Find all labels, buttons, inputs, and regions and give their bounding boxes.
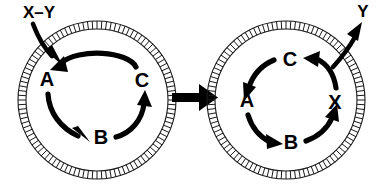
left-edge-a-to-b [48,94,90,142]
left-edge-b-to-c [116,90,152,137]
right-node-label-x: X [328,91,342,113]
right-node-label-c: C [283,48,297,70]
left-compartment: A B C X–Y [18,3,176,179]
right-edge-a-to-b [248,115,283,149]
left-node-label-a: A [40,68,54,90]
diagram-root: A B C X–Y [0,0,381,187]
product-output-arrow [333,22,362,67]
left-edge-c-to-a [50,53,136,72]
right-node-label-a: A [240,89,254,111]
reaction-cycle-diagram: A B C X–Y [0,0,381,187]
substrate-input-label: X–Y [23,3,56,22]
right-edge-x-to-c [303,51,336,88]
transition-arrow-shaft [172,93,202,102]
left-node-label-b: B [94,126,108,148]
transition-arrow [172,84,218,111]
left-node-label-c: C [135,69,149,91]
right-compartment: C A B X Y [207,2,369,179]
right-node-label-b: B [284,131,298,153]
product-output-label: Y [357,2,369,21]
